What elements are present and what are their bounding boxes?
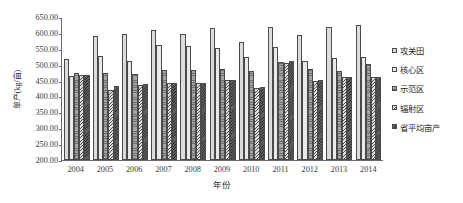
legend-label: 示范区	[400, 82, 424, 94]
bar	[376, 77, 381, 160]
legend-swatch-icon	[392, 86, 397, 91]
x-axis-tick-label: 2007	[149, 163, 178, 177]
legend-item: 核心区	[392, 63, 440, 75]
bar-group	[296, 18, 325, 160]
bar-group	[91, 18, 120, 160]
bar-group	[237, 18, 266, 160]
legend-swatch-icon	[392, 124, 397, 129]
legend-swatch-icon	[392, 67, 397, 72]
x-axis-tick-label: 2008	[178, 163, 207, 177]
y-axis-tick-mark	[59, 97, 63, 98]
y-axis-tick-mark	[59, 145, 63, 146]
y-axis-tick-mark	[59, 66, 63, 67]
chart-legend: 攻关田核心区示范区辐射区省平均亩产	[392, 44, 440, 133]
bar-group	[150, 18, 179, 160]
bar	[201, 83, 206, 160]
bar	[318, 80, 323, 160]
y-axis-tick-mark	[59, 50, 63, 51]
bar-group	[266, 18, 295, 160]
bar-group	[179, 18, 208, 160]
x-axis-tick-label: 2006	[120, 163, 149, 177]
x-axis-tick-label: 2010	[237, 163, 266, 177]
x-axis-ticks: 2004200520062007200820092010201120122013…	[61, 163, 383, 177]
x-axis-tick-label: 2005	[90, 163, 119, 177]
y-axis-tick-mark	[59, 34, 63, 35]
bar	[172, 83, 177, 160]
y-axis-tick-mark	[59, 161, 63, 162]
legend-label: 辐射区	[400, 102, 424, 114]
legend-label: 省平均亩产	[400, 121, 440, 133]
legend-swatch-icon	[392, 48, 397, 53]
legend-item: 示范区	[392, 82, 440, 94]
legend-item: 辐射区	[392, 102, 440, 114]
bar-group	[208, 18, 237, 160]
legend-item: 攻关田	[392, 44, 440, 56]
plot-area: 650.00600.00550.00500.00450.00400.00350.…	[61, 18, 383, 161]
bar-group	[325, 18, 354, 160]
bar-groups	[62, 18, 383, 160]
x-axis-tick-label: 2013	[324, 163, 353, 177]
bar	[114, 86, 119, 160]
bar-group	[354, 18, 383, 160]
legend-label: 核心区	[400, 63, 424, 75]
y-axis-title: 单产(kg/亩)	[11, 35, 22, 145]
x-axis-title: 年份	[61, 178, 383, 190]
x-axis-tick-label: 2004	[61, 163, 90, 177]
x-axis-tick-label: 2009	[207, 163, 236, 177]
bar	[143, 84, 148, 160]
y-axis-tick-mark	[59, 129, 63, 130]
bar	[84, 75, 89, 160]
bar	[347, 77, 352, 160]
x-axis-tick-label: 2014	[354, 163, 383, 177]
y-axis-tick-mark	[59, 18, 63, 19]
y-axis-tick-mark	[59, 113, 63, 114]
yield-bar-chart: 单产(kg/亩) 650.00600.00550.00500.00450.004…	[0, 0, 463, 203]
legend-swatch-icon	[392, 105, 397, 110]
legend-item: 省平均亩产	[392, 121, 440, 133]
bar	[230, 80, 235, 160]
bar	[260, 87, 265, 160]
legend-label: 攻关田	[400, 44, 424, 56]
bar-group	[120, 18, 149, 160]
y-axis-tick-mark	[59, 82, 63, 83]
x-axis-tick-label: 2012	[295, 163, 324, 177]
x-axis-tick-label: 2011	[266, 163, 295, 177]
bar-group	[62, 18, 91, 160]
bar	[289, 61, 294, 160]
